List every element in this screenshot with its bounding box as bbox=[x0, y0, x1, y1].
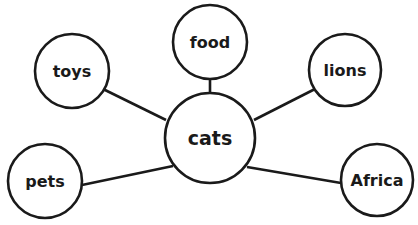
nodes: catstoysfoodlionspetsAfrica bbox=[8, 5, 413, 218]
center-node-cats: cats bbox=[165, 93, 255, 183]
edge-cats-toys bbox=[103, 89, 166, 120]
node-lions: lions bbox=[309, 34, 381, 106]
node-pets: pets bbox=[8, 144, 82, 218]
node-food-label: food bbox=[190, 33, 230, 52]
node-toys-label: toys bbox=[53, 62, 92, 81]
node-africa: Africa bbox=[341, 144, 413, 216]
concept-web-diagram: catstoysfoodlionspetsAfrica bbox=[0, 0, 418, 225]
node-toys: toys bbox=[35, 34, 109, 108]
edge-cats-lions bbox=[254, 89, 315, 120]
node-africa-label: Africa bbox=[351, 171, 404, 190]
edge-cats-pets bbox=[82, 166, 173, 185]
edge-cats-africa bbox=[247, 167, 341, 183]
node-pets-label: pets bbox=[25, 172, 64, 191]
node-lions-label: lions bbox=[324, 61, 367, 80]
node-food: food bbox=[173, 5, 247, 79]
center-node-cats-label: cats bbox=[188, 127, 232, 149]
